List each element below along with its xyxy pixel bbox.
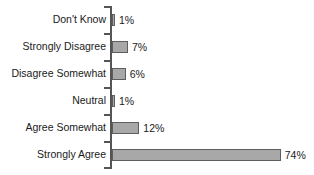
category-label-disagree-somewhat: Disagree Somewhat [11,60,106,87]
bar-group-dont-know: 1% [112,6,134,33]
bar-disagree-somewhat [112,68,126,80]
bar-value-agree-somewhat: 12% [143,122,164,134]
bar-group-neutral: 1% [112,87,134,114]
bar-value-strongly-agree: 74% [285,149,306,161]
bar-row: Don't Know 1% [0,6,314,33]
bar-agree-somewhat [112,122,139,134]
bar-dont-know [112,14,115,26]
bar-row: Strongly Disagree 7% [0,33,314,60]
bar-row: Strongly Agree 74% [0,141,314,168]
category-label-strongly-agree: Strongly Agree [37,141,106,168]
bar-value-disagree-somewhat: 6% [130,68,145,80]
category-label-strongly-disagree: Strongly Disagree [23,33,106,60]
bar-group-strongly-agree: 74% [112,141,306,168]
bar-strongly-disagree [112,41,128,53]
bar-strongly-agree [112,149,281,161]
bar-row: Disagree Somewhat 6% [0,60,314,87]
bar-group-agree-somewhat: 12% [112,114,164,141]
bar-row: Neutral 1% [0,87,314,114]
bar-chart: Don't Know 1% Strongly Disagree 7% Disag… [0,0,314,175]
category-label-agree-somewhat: Agree Somewhat [25,114,106,141]
category-label-dont-know: Don't Know [53,6,106,33]
bar-row: Agree Somewhat 12% [0,114,314,141]
bar-group-strongly-disagree: 7% [112,33,147,60]
bar-neutral [112,95,115,107]
category-label-neutral: Neutral [72,87,106,114]
plot-area: Don't Know 1% Strongly Disagree 7% Disag… [0,0,314,175]
bar-group-disagree-somewhat: 6% [112,60,145,87]
bar-value-neutral: 1% [119,95,134,107]
bar-value-dont-know: 1% [119,14,134,26]
bar-value-strongly-disagree: 7% [132,41,147,53]
